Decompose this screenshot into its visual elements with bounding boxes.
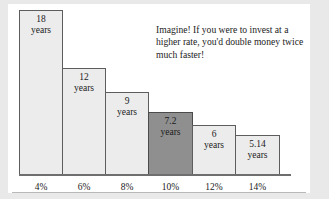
bar-value-label: 12 bbox=[63, 72, 105, 83]
bar-12-percent[interactable]: 6 years bbox=[192, 125, 236, 176]
bar-10-percent-highlighted[interactable]: 7.2 years bbox=[148, 112, 193, 176]
bar-unit-label: years bbox=[20, 25, 62, 36]
bar-value-label: 9 bbox=[106, 96, 148, 107]
chart-figure-root: 18 years 12 years 9 years 7.2 years 6 ye bbox=[0, 0, 329, 199]
bar-value-label: 5.14 bbox=[236, 139, 279, 150]
bar-unit-label: years bbox=[193, 140, 235, 151]
bar-14-percent[interactable]: 5.14 years bbox=[235, 135, 280, 176]
bar-value-label: 18 bbox=[20, 14, 62, 25]
bar-value-label: 7.2 bbox=[149, 116, 192, 127]
bar-unit-label: years bbox=[63, 83, 105, 94]
chart-white-panel: 18 years 12 years 9 years 7.2 years 6 ye bbox=[8, 4, 310, 193]
annotation-text: Imagine! If you were to invest at a high… bbox=[156, 24, 306, 61]
bar-8-percent[interactable]: 9 years bbox=[105, 92, 149, 176]
bar-value-label: 6 bbox=[193, 129, 235, 140]
figure-bottom-border bbox=[12, 192, 306, 193]
bar-6-percent[interactable]: 12 years bbox=[62, 68, 106, 176]
bar-unit-label: years bbox=[106, 107, 148, 118]
bar-4-percent[interactable]: 18 years bbox=[19, 10, 63, 176]
bar-unit-label: years bbox=[236, 150, 279, 161]
x-axis-line bbox=[19, 174, 291, 176]
bar-unit-label: years bbox=[149, 127, 192, 138]
